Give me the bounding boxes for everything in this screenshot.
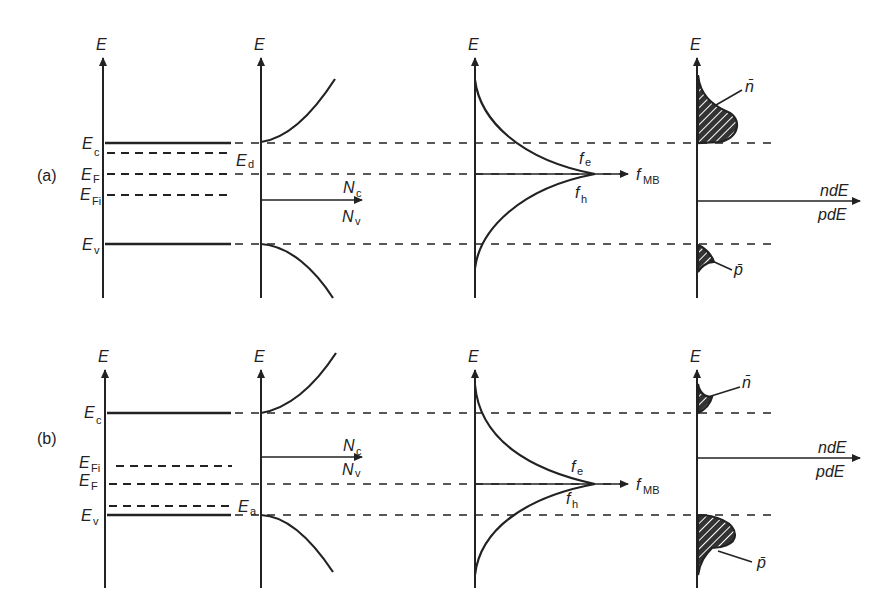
panel-label-a: (a) xyxy=(37,167,57,184)
svg-text:c: c xyxy=(96,414,102,426)
valence-dos-curve xyxy=(261,244,333,298)
svg-text:ndE: ndE xyxy=(818,439,847,456)
label-p-bar: p̄ xyxy=(733,261,743,278)
svg-text:E: E xyxy=(468,348,479,365)
svg-text:a: a xyxy=(250,505,257,517)
svg-text:E: E xyxy=(98,348,109,365)
density-of-states-b: E E a N c N v xyxy=(238,348,362,588)
svg-text:n̄: n̄ xyxy=(742,374,751,391)
electron-distribution xyxy=(698,75,737,143)
svg-text:e: e xyxy=(577,465,583,477)
svg-text:c: c xyxy=(356,187,362,199)
svg-text:h: h xyxy=(581,193,587,205)
svg-text:pdE: pdE xyxy=(815,463,845,480)
svg-text:MB: MB xyxy=(643,174,660,186)
label-ev: E xyxy=(82,236,93,253)
panel-label-b: (b) xyxy=(37,430,57,447)
svg-text:v: v xyxy=(93,515,99,527)
svg-text:Fi: Fi xyxy=(92,195,101,207)
label-fmb: f xyxy=(636,166,642,183)
svg-text:F: F xyxy=(91,480,98,492)
leader-n xyxy=(708,387,740,397)
leader-p xyxy=(718,551,752,562)
svg-text:E: E xyxy=(84,404,95,421)
svg-text:e: e xyxy=(585,156,591,168)
svg-text:c: c xyxy=(356,445,362,457)
label-nv: N xyxy=(342,461,354,478)
leader-n xyxy=(716,90,742,105)
label-ea: E xyxy=(238,498,249,515)
svg-text:E: E xyxy=(468,36,479,53)
valence-dos-curve xyxy=(261,515,333,572)
label-nc: N xyxy=(343,179,355,196)
hole-distribution xyxy=(698,515,735,575)
band-diagram: (a) E E c E F E Fi E v E xyxy=(0,0,892,616)
svg-text:f: f xyxy=(636,476,642,493)
svg-text:Fi: Fi xyxy=(91,462,100,474)
hole-distribution xyxy=(698,245,714,272)
label-nc: N xyxy=(343,437,355,454)
svg-text:v: v xyxy=(94,244,100,256)
energy-level-diagram-a: E E c E F E Fi E v xyxy=(80,36,231,298)
panel-a: (a) E E c E F E Fi E v E xyxy=(37,36,860,298)
conduction-dos-curve xyxy=(261,79,335,142)
label-ec: E xyxy=(82,135,93,152)
svg-text:E: E xyxy=(254,36,265,53)
conduction-dos-curve xyxy=(261,353,336,413)
svg-text:E: E xyxy=(79,454,90,471)
svg-text:E: E xyxy=(690,36,701,53)
svg-text:MB: MB xyxy=(643,484,660,496)
label-ef: E xyxy=(81,166,92,183)
carrier-density-a: E n̄ p̄ ndE pdE xyxy=(690,36,860,298)
svg-text:E: E xyxy=(79,472,90,489)
label-efi: E xyxy=(80,186,91,203)
label-nv: N xyxy=(342,208,354,225)
axis-label-e: E xyxy=(96,36,107,53)
svg-text:p̄: p̄ xyxy=(756,554,766,571)
label-ed: E xyxy=(236,152,247,169)
leader-p xyxy=(710,260,732,270)
energy-level-diagram-b: E E c E Fi E F E v xyxy=(79,348,232,588)
distribution-function-b: E f e f h f MB xyxy=(468,348,660,588)
panel-b: (b) E E c E Fi E F E v E E xyxy=(37,348,860,588)
distribution-function-a: E f e f h f MB xyxy=(468,36,660,298)
electron-distribution xyxy=(698,384,712,413)
svg-text:E: E xyxy=(690,348,701,365)
svg-text:d: d xyxy=(248,158,254,170)
svg-text:F: F xyxy=(93,173,100,185)
svg-text:E: E xyxy=(254,348,265,365)
label-pdE: pdE xyxy=(817,206,847,223)
label-ndE: ndE xyxy=(820,182,849,199)
label-n-bar: n̄ xyxy=(745,78,754,95)
fe-curve xyxy=(475,80,595,174)
svg-text:v: v xyxy=(355,467,361,479)
carrier-density-b: E n̄ p̄ ndE pdE xyxy=(690,348,860,588)
density-of-states-a: E E d N c N v xyxy=(236,36,362,298)
svg-text:v: v xyxy=(355,215,361,227)
svg-text:c: c xyxy=(94,146,100,158)
svg-text:E: E xyxy=(81,507,92,524)
svg-text:h: h xyxy=(572,498,578,510)
